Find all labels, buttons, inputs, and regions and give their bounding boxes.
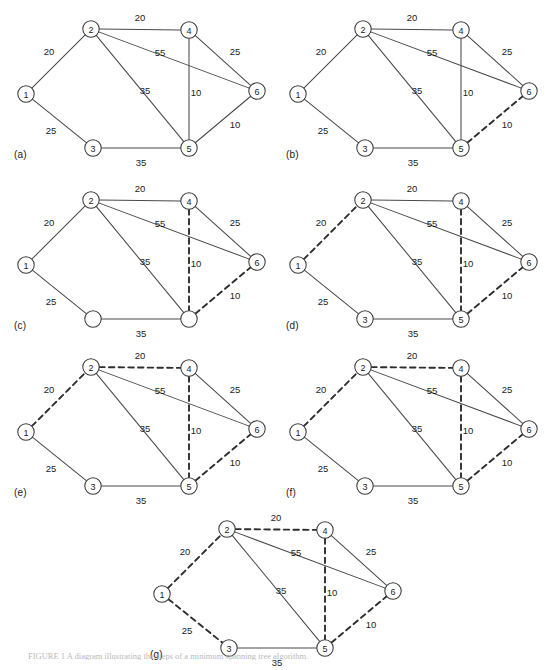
edge-weight-1-3: 25 (318, 463, 329, 474)
edge-weight-2-4: 20 (407, 12, 418, 23)
edge-weight-2-4: 20 (135, 350, 146, 361)
node-4: 4 (181, 22, 197, 38)
edge-weight-4-6: 25 (502, 384, 513, 395)
node-6: 6 (521, 83, 537, 99)
edge-weight-5-6: 10 (230, 119, 241, 130)
node-label-1: 1 (23, 261, 28, 271)
node-label-6: 6 (526, 258, 531, 268)
node-1: 1 (290, 257, 306, 273)
edge-2-6 (99, 203, 250, 259)
node-1: 1 (18, 257, 34, 273)
edge-1-3 (32, 437, 86, 481)
edge-2-6 (235, 532, 386, 588)
edge-weight-2-4: 20 (407, 350, 418, 361)
edge-1-3 (32, 270, 86, 314)
node-3: 3 (85, 478, 101, 494)
edge-weight-2-5: 35 (276, 585, 287, 596)
node-4: 4 (181, 193, 197, 209)
node-6: 6 (521, 421, 537, 437)
node-label-1: 1 (23, 90, 28, 100)
edge-weight-2-6: 55 (155, 385, 166, 396)
graph-panel-e: 202520553525101035123456(e) (0, 338, 278, 508)
edge-1-2 (32, 35, 85, 88)
node-label-3: 3 (362, 482, 367, 492)
edge-weight-4-5: 10 (191, 425, 202, 436)
panel-label-f: (f) (286, 487, 296, 498)
edge-2-6 (371, 203, 522, 259)
edge-weight-2-4: 20 (407, 183, 418, 194)
node-label-4: 4 (186, 26, 191, 36)
edge-1-2 (304, 35, 357, 88)
node-label-1: 1 (159, 590, 164, 600)
node-3 (85, 311, 101, 327)
node-label-2: 2 (360, 25, 365, 35)
node-label-5: 5 (186, 482, 191, 492)
edge-weight-4-5: 10 (191, 87, 202, 98)
node-label-3: 3 (362, 315, 367, 325)
edge-2-4 (99, 200, 181, 201)
edge-2-6 (371, 32, 522, 88)
node-2: 2 (83, 359, 99, 375)
node-4: 4 (453, 22, 469, 38)
node-6: 6 (249, 83, 265, 99)
node-5 (181, 311, 197, 327)
node-label-2: 2 (88, 363, 93, 373)
edge-weight-1-2: 20 (44, 217, 55, 228)
edge-weight-1-3: 25 (46, 463, 57, 474)
node-label-6: 6 (254, 425, 259, 435)
edge-2-4-selected (99, 367, 181, 368)
node-1: 1 (18, 86, 34, 102)
edge-weight-1-2: 20 (316, 46, 327, 57)
node-5: 5 (453, 311, 469, 327)
node-label-3: 3 (90, 144, 95, 154)
node-4: 4 (181, 360, 197, 376)
edge-5-6-selected (195, 434, 250, 480)
edge-weight-4-5: 10 (191, 258, 202, 269)
edge-weight-1-2: 20 (44, 384, 55, 395)
node-6: 6 (249, 254, 265, 270)
edge-weight-5-6: 10 (502, 119, 513, 130)
edge-2-4 (371, 29, 453, 30)
figure-bottom-caption: FIGURE 1 A diagram illustrating the step… (28, 651, 528, 660)
graph-panel-g: 202520553525101035123456(g) (136, 500, 414, 670)
node-label-5: 5 (458, 315, 463, 325)
edge-2-6 (99, 32, 250, 88)
node-4: 4 (453, 360, 469, 376)
edge-1-3 (32, 99, 86, 143)
edge-weight-3-5: 35 (136, 328, 147, 339)
node-label-6: 6 (390, 587, 395, 597)
edge-weight-3-5: 35 (408, 328, 419, 339)
graph-a: 202520553525101035123456 (0, 0, 278, 170)
edge-weight-1-2: 20 (316, 217, 327, 228)
edge-2-6 (99, 370, 250, 426)
edge-weight-4-6: 25 (230, 217, 241, 228)
node-label-5: 5 (458, 482, 463, 492)
edge-weight-2-4: 20 (135, 12, 146, 23)
edge-2-4 (99, 29, 181, 30)
node-label-5: 5 (458, 144, 463, 154)
node-label-4: 4 (186, 197, 191, 207)
edge-weight-1-3: 25 (182, 625, 193, 636)
edge-5-6-selected (467, 434, 522, 480)
edge-weight-1-2: 20 (316, 384, 327, 395)
node-2: 2 (83, 21, 99, 37)
edge-2-6 (371, 370, 522, 426)
node-4: 4 (317, 522, 333, 538)
node-label-2: 2 (360, 363, 365, 373)
edge-weight-4-6: 25 (502, 217, 513, 228)
node-label-2: 2 (88, 25, 93, 35)
edge-5-6 (195, 96, 250, 142)
edge-1-2-selected (168, 535, 221, 588)
panel-label-b: (b) (286, 149, 299, 160)
graph-c: 2025205535251010351246 (0, 171, 278, 341)
edge-weight-2-5: 35 (140, 423, 151, 434)
edge-weight-1-3: 25 (46, 125, 57, 136)
edge-1-2-selected (304, 373, 357, 426)
graph-f: 202520553525101035123456 (272, 338, 549, 508)
edge-weight-1-2: 20 (44, 46, 55, 57)
edge-weight-2-6: 55 (427, 385, 438, 396)
edge-2-4-selected (235, 529, 317, 530)
node-label-2: 2 (224, 525, 229, 535)
edge-1-3 (304, 270, 358, 314)
